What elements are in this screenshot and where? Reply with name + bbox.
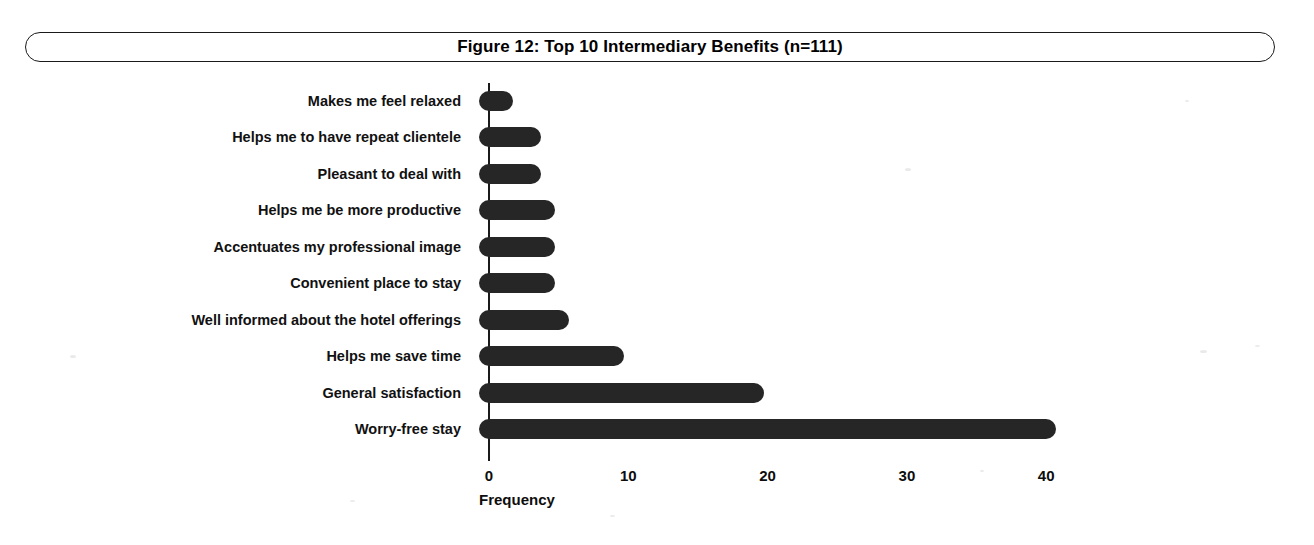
bar (479, 419, 1056, 439)
x-tick-label: 30 (899, 467, 916, 484)
chart-row: Pleasant to deal with (0, 164, 1314, 184)
chart-row: Well informed about the hotel offerings (0, 310, 1314, 330)
x-axis-label: Frequency (479, 491, 555, 508)
category-label: Convenient place to stay (0, 273, 461, 293)
chart-row: Helps me save time (0, 346, 1314, 366)
scan-artifact (980, 470, 984, 472)
scan-artifact (1200, 350, 1207, 353)
category-label: Helps me be more productive (0, 200, 461, 220)
chart-row: General satisfaction (0, 383, 1314, 403)
scan-artifact (1255, 345, 1260, 347)
bar (479, 237, 555, 257)
x-tick-label: 0 (485, 467, 493, 484)
chart-row: Accentuates my professional image (0, 237, 1314, 257)
bar (479, 310, 569, 330)
chart-row: Helps me be more productive (0, 200, 1314, 220)
chart-row: Convenient place to stay (0, 273, 1314, 293)
category-label: Accentuates my professional image (0, 237, 461, 257)
bar (479, 127, 541, 147)
scan-artifact (905, 168, 911, 171)
x-tick-label: 40 (1038, 467, 1055, 484)
chart-row: Worry-free stay (0, 419, 1314, 439)
bar (479, 200, 555, 220)
category-label: Helps me to have repeat clientele (0, 127, 461, 147)
category-label: Makes me feel relaxed (0, 91, 461, 111)
x-tick-label: 10 (620, 467, 637, 484)
scan-artifact (1185, 100, 1189, 102)
category-label: General satisfaction (0, 383, 461, 403)
chart-row: Makes me feel relaxed (0, 91, 1314, 111)
bar-chart: Makes me feel relaxedHelps me to have re… (0, 0, 1314, 545)
category-label: Worry-free stay (0, 419, 461, 439)
x-tick-label: 20 (759, 467, 776, 484)
bar (479, 273, 555, 293)
bar (479, 346, 624, 366)
scan-artifact (610, 515, 615, 517)
bar (479, 164, 541, 184)
scan-artifact (350, 500, 355, 502)
bar (479, 91, 513, 111)
category-label: Well informed about the hotel offerings (0, 310, 461, 330)
bar (479, 383, 764, 403)
chart-row: Helps me to have repeat clientele (0, 127, 1314, 147)
scan-artifact (70, 355, 76, 358)
category-label: Pleasant to deal with (0, 164, 461, 184)
